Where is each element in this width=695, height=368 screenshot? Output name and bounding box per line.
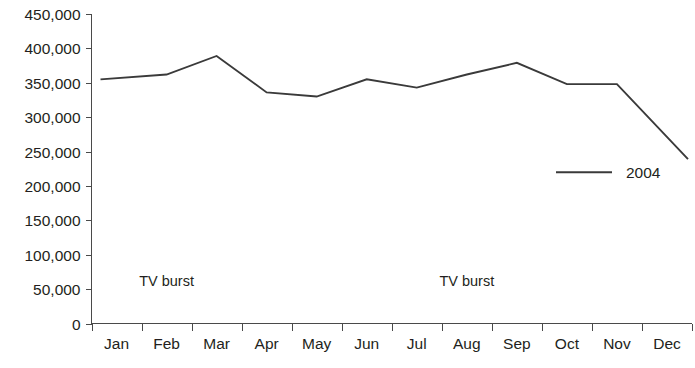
y-tick-label: 250,000 <box>24 144 80 161</box>
x-tick-label-aug: Aug <box>453 335 481 352</box>
y-tick-label: 0 <box>72 316 81 333</box>
x-tick-label-may: May <box>302 335 332 352</box>
x-tick-label-nov: Nov <box>603 335 631 352</box>
x-tick-label-feb: Feb <box>153 335 180 352</box>
y-tick-label: 400,000 <box>24 40 80 57</box>
annotation-tv-burst: TV burst <box>139 273 194 289</box>
x-tick-label-jul: Jul <box>407 335 427 352</box>
x-tick-label-oct: Oct <box>555 335 580 352</box>
y-tick-label: 350,000 <box>24 75 80 92</box>
chart-canvas: 050,000100,000150,000200,000250,000300,0… <box>0 0 695 368</box>
x-tick-label-apr: Apr <box>255 335 279 352</box>
x-tick-label-sep: Sep <box>503 335 531 352</box>
legend-label-2004: 2004 <box>626 164 661 181</box>
annotation-tv-burst: TV burst <box>439 273 494 289</box>
x-tick-label-dec: Dec <box>653 335 681 352</box>
y-tick-label: 200,000 <box>24 178 80 195</box>
line-chart-figure: 050,000100,000150,000200,000250,000300,0… <box>0 0 695 368</box>
y-tick-label: 150,000 <box>24 212 80 229</box>
x-tick-label-jun: Jun <box>354 335 379 352</box>
chart-background <box>0 0 695 368</box>
y-tick-label: 450,000 <box>24 6 80 23</box>
y-tick-label: 300,000 <box>24 109 80 126</box>
y-tick-label: 50,000 <box>33 281 81 298</box>
y-tick-label: 100,000 <box>24 247 80 264</box>
x-tick-label-jan: Jan <box>104 335 129 352</box>
x-tick-label-mar: Mar <box>203 335 230 352</box>
